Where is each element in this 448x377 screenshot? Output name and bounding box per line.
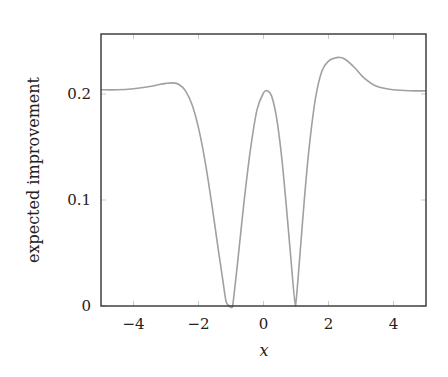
x-axis-label: x <box>259 341 268 360</box>
y-tick-label: 0.1 <box>67 191 91 209</box>
y-axis-ticks: 00.10.2 <box>67 85 426 315</box>
x-tick-label: 0 <box>259 315 269 333</box>
x-tick-label: −2 <box>187 315 209 333</box>
x-tick-label: 2 <box>324 315 334 333</box>
y-axis-label: expected improvement <box>24 76 43 263</box>
y-tick-label: 0.2 <box>67 85 91 103</box>
y-tick-label: 0 <box>81 297 91 315</box>
plot-area <box>101 57 426 307</box>
chart: −4−2024 00.10.2 x expected improvement <box>0 0 448 377</box>
series-line <box>101 57 426 307</box>
x-tick-label: −4 <box>122 315 144 333</box>
plot-frame <box>101 34 426 306</box>
x-tick-label: 4 <box>389 315 399 333</box>
x-axis-ticks: −4−2024 <box>122 34 398 333</box>
